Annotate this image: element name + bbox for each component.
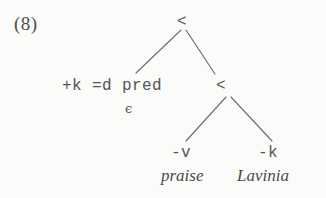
example-number: (8) <box>14 14 38 33</box>
left-child-phonetic-content: ϵ <box>125 102 132 115</box>
leaf-lavinia-feature: -k <box>258 145 278 161</box>
branch-right-to-lavinia <box>231 97 272 141</box>
tree-root-node-label: < <box>177 14 187 30</box>
right-child-node-label: < <box>216 78 226 94</box>
branch-right-to-praise <box>186 97 226 141</box>
leaf-praise-lexical-item: praise <box>161 167 204 184</box>
leaf-praise-feature: -v <box>171 145 191 161</box>
leaf-lavinia-lexical-item: Lavinia <box>237 167 289 184</box>
left-child-features: +k =d pred <box>62 78 162 94</box>
branch-root-to-right <box>186 30 215 74</box>
syntax-tree-figure: (8) < +k =d pred ϵ < -v praise -k Lavini… <box>0 0 326 198</box>
branch-root-to-left <box>136 30 181 73</box>
